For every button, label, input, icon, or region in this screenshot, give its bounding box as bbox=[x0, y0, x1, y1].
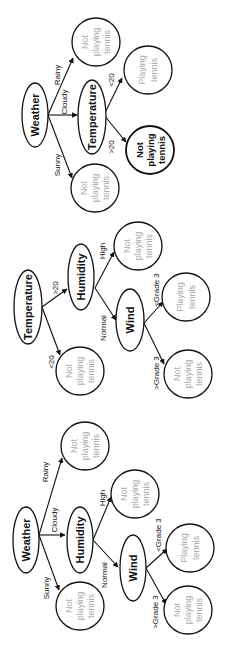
leaf-lt20-not-playing: Not playing tennis bbox=[56, 347, 104, 395]
edge-label-lt-grade3: <Grade 3 bbox=[154, 518, 163, 552]
leaf-text: tennis bbox=[187, 284, 197, 309]
leaf-text: tennis bbox=[194, 597, 204, 622]
leaf-text: tennis bbox=[141, 481, 151, 506]
edge-lt20 bbox=[42, 307, 60, 355]
edge-label-cloudy: Cloudy bbox=[60, 90, 69, 115]
leaf-high-not-playing: Not playing tennis bbox=[114, 222, 162, 270]
leaf-sunny-not-playing: Not playing tennis bbox=[56, 582, 104, 630]
leaf-text: Not bbox=[172, 367, 182, 382]
leaf-text: playing bbox=[90, 174, 100, 203]
leaf-text: playing bbox=[80, 432, 90, 461]
node-humidity-label: Humidity bbox=[75, 253, 87, 301]
node-humidity-label: Humidity bbox=[74, 516, 86, 564]
leaf-lt-grade3-playing: Playing tennis bbox=[166, 524, 214, 572]
leaf-text: tennis bbox=[102, 29, 112, 54]
node-weather-label: Weather bbox=[20, 518, 32, 562]
leaf-text: Playing bbox=[137, 55, 147, 85]
leaf-rainy-not-playing: Not playing tennis bbox=[72, 18, 120, 66]
leaf-text: Not bbox=[80, 35, 90, 50]
leaf-text: tennis bbox=[156, 136, 167, 164]
leaf-text: playing bbox=[183, 596, 193, 625]
node-wind-label: Wind bbox=[127, 555, 139, 582]
edge-label-lt20: <20 bbox=[47, 355, 56, 369]
leaf-high-not-playing: Not playing tennis bbox=[111, 470, 159, 518]
leaf-text: tennis bbox=[91, 433, 101, 458]
decision-trees-diagram: Weather Temperature Rainy Cloudy Sunny <… bbox=[0, 0, 225, 660]
edge-label-gt20: >20 bbox=[107, 140, 116, 154]
leaf-text: tennis bbox=[191, 535, 201, 560]
leaf-text: Not bbox=[64, 364, 74, 379]
tree-3: Weather Humidity Wind Rainy Cloudy Sunny… bbox=[13, 422, 214, 634]
leaf-sunny-not-playing: Not playing tennis bbox=[71, 164, 119, 212]
leaf-text: tennis bbox=[86, 593, 96, 618]
edge-label-lt-grade3: <Grade 3 bbox=[152, 273, 161, 307]
leaf-gt20-not-playing: Not playing tennis bbox=[126, 126, 174, 174]
leaf-text: playing bbox=[75, 357, 85, 386]
edge-label-gt20: >20 bbox=[51, 281, 60, 295]
tree-2: Temperature Humidity Wind >20 <20 High N… bbox=[14, 222, 212, 398]
leaf-text: tennis bbox=[86, 358, 96, 383]
leaf-text: Not bbox=[172, 603, 182, 618]
leaf-text: tennis bbox=[144, 233, 154, 258]
leaf-text: Playing bbox=[175, 282, 185, 312]
leaf-lt20-playing: Playing tennis bbox=[124, 46, 172, 94]
edge-label-normal: Normal bbox=[100, 562, 109, 588]
leaf-text: playing bbox=[183, 360, 193, 389]
edge-label-high: High bbox=[98, 490, 107, 506]
leaf-rainy-not-playing: Not playing tennis bbox=[61, 422, 109, 470]
node-wind-label: Wind bbox=[124, 307, 136, 334]
leaf-text: Not bbox=[69, 439, 79, 454]
node-temperature-label: Temperature bbox=[86, 84, 98, 150]
leaf-text: Not bbox=[119, 487, 129, 502]
leaf-text: Not bbox=[122, 239, 132, 254]
tree-1: Weather Temperature Rainy Cloudy Sunny <… bbox=[22, 18, 174, 212]
leaf-text: Playing bbox=[179, 533, 189, 563]
leaf-text: playing bbox=[133, 232, 143, 261]
leaf-text: Not bbox=[64, 599, 74, 614]
edge-label-sunny: Sunny bbox=[42, 577, 51, 600]
leaf-gt-grade3-not-playing: Not playing tennis bbox=[164, 586, 212, 634]
edge-label-gt-grade3: >Grade 3 bbox=[151, 595, 160, 629]
node-weather-label: Weather bbox=[29, 93, 41, 137]
edge-gt20 bbox=[104, 115, 126, 142]
edge-label-lt20: <20 bbox=[107, 73, 116, 87]
edge-label-gt-grade3: >Grade 3 bbox=[152, 356, 161, 390]
edge-label-rainy: Rainy bbox=[41, 462, 50, 482]
leaf-text: playing bbox=[75, 592, 85, 621]
leaf-lt-grade3-playing: Playing tennis bbox=[162, 273, 210, 321]
leaf-text: playing bbox=[145, 133, 156, 166]
leaf-text: tennis bbox=[194, 361, 204, 386]
leaf-text: playing bbox=[130, 480, 140, 509]
node-temperature-label: Temperature bbox=[22, 274, 34, 340]
edge-label-rainy: Rainy bbox=[53, 65, 62, 85]
leaf-text: Not bbox=[79, 181, 89, 196]
edge-label-sunny: Sunny bbox=[53, 154, 62, 177]
edge-label-high: High bbox=[98, 243, 107, 259]
leaf-gt-grade3-not-playing: Not playing tennis bbox=[164, 350, 212, 398]
leaf-text: tennis bbox=[149, 57, 159, 82]
edge-label-cloudy: Cloudy bbox=[50, 508, 59, 533]
leaf-text: Not bbox=[134, 141, 145, 158]
edge-label-normal: Normal bbox=[99, 315, 108, 341]
leaf-text: playing bbox=[91, 28, 101, 57]
leaf-text: tennis bbox=[101, 175, 111, 200]
